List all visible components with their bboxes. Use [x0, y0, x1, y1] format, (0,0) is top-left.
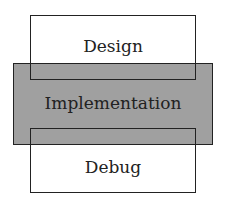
design-label: Design — [31, 36, 195, 56]
debug-label: Debug — [31, 157, 195, 177]
implementation-label: Implementation — [14, 93, 212, 113]
design-box-overlap-outline — [30, 63, 196, 80]
debug-box-overlap-outline — [30, 128, 196, 145]
